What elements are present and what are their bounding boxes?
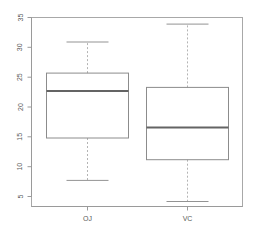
boxplot-canvas: 5 10 15 20 25 30 35 OJ VC (0, 0, 261, 236)
box-iqr-oj (47, 73, 129, 138)
y-tick-label-25: 25 (17, 73, 24, 81)
y-tick-label-10: 10 (17, 163, 24, 171)
y-tick-label-30: 30 (17, 43, 24, 51)
y-tick-label-35: 35 (17, 14, 24, 22)
box-group-oj (47, 42, 129, 180)
x-tick-label-oj: OJ (83, 215, 92, 222)
x-tick-label-vc: VC (183, 215, 193, 222)
plot-frame (32, 18, 243, 207)
x-axis: OJ VC (32, 207, 243, 223)
y-tick-label-5: 5 (17, 194, 24, 198)
box-group-vc (147, 24, 229, 201)
box-iqr-vc (147, 87, 229, 159)
y-axis: 5 10 15 20 25 30 35 (17, 14, 32, 199)
y-tick-label-20: 20 (17, 103, 24, 111)
y-tick-label-15: 15 (17, 133, 24, 141)
boxplot-figure: 5 10 15 20 25 30 35 OJ VC (0, 0, 261, 236)
